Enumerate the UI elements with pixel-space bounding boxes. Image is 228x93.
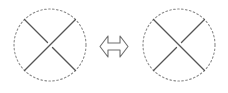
right-strand-ne-sw-under-part1 (181, 20, 204, 43)
left-tangle (14, 9, 86, 81)
right-strand-ne-sw-under-part2 (154, 47, 177, 70)
equivalence-arrow (100, 36, 128, 57)
knot-crossing-change-figure (0, 0, 228, 93)
left-strand-nw-se-under-part2 (52, 47, 75, 70)
left-strand-nw-se-under-part1 (25, 20, 48, 43)
double-headed-arrow-glyph (100, 36, 128, 57)
diagram-canvas (0, 0, 228, 93)
right-tangle (143, 9, 215, 81)
